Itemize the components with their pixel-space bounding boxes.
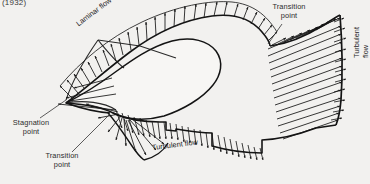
stagnation-point-label: Stagnation point [2,119,60,136]
leader-transition-bottom [72,114,110,152]
figure-canvas: (1932) Laminar flow Transition point Tur… [0,0,370,184]
transition-point-bottom-label: Transition point [31,152,93,169]
corner-note: (1932) [2,0,26,7]
turbulent-flow-right-label: Turbulent flow [352,27,370,58]
leader-stagnation [40,100,66,118]
transition-point-top-label: Transition point [258,3,320,20]
